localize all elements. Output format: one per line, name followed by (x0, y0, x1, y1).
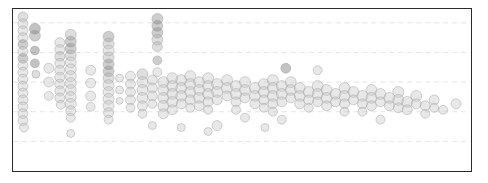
scatter-point (212, 95, 222, 105)
scatter-point (44, 63, 54, 73)
scatter-point (186, 103, 195, 112)
scatter-point (86, 65, 96, 75)
scatter-point (451, 99, 461, 109)
scatter-point (104, 115, 113, 124)
scatter-point (204, 128, 212, 136)
scatter-point (241, 113, 250, 122)
scatter-point (411, 99, 421, 109)
scatter-point (44, 77, 54, 87)
scatter-point (281, 63, 291, 73)
scatter-point (295, 99, 305, 109)
scatter-point (384, 101, 394, 111)
scatter-point (126, 103, 135, 112)
scatter-point (138, 109, 147, 118)
scatter-point (56, 100, 65, 109)
scatter-point (277, 97, 287, 107)
plot-area (13, 9, 471, 171)
scatter-point (19, 123, 28, 132)
scatter-point (376, 115, 385, 124)
scatter-point (439, 105, 448, 114)
scatter-point (153, 68, 162, 77)
scatter-point (212, 121, 222, 131)
scatter-point (29, 30, 40, 41)
scatter-point (148, 99, 157, 108)
scatter-point (340, 107, 349, 116)
scatter-point (116, 74, 124, 82)
scatter-point (86, 78, 96, 88)
scatter-point (322, 101, 332, 111)
scatter-point (240, 93, 250, 103)
scatter-point (67, 130, 75, 138)
scatter-point (153, 56, 162, 65)
scatter-point (277, 115, 286, 124)
scatter-point (232, 105, 241, 114)
scatter-point (430, 103, 439, 112)
scatter-plot-screenshot (0, 0, 488, 183)
scatter-point (116, 97, 123, 104)
scatter-point (30, 46, 39, 55)
scatter-point (331, 97, 341, 107)
scatter-point (421, 109, 430, 118)
scatter-point (66, 113, 75, 122)
scatter-point (30, 59, 39, 68)
scatter-point (358, 107, 367, 116)
plot-frame (12, 8, 472, 172)
scatter-point (194, 101, 204, 111)
data-points-layer (13, 9, 471, 171)
scatter-point (148, 122, 156, 130)
scatter-point (313, 66, 322, 75)
scatter-point (304, 103, 313, 112)
scatter-point (116, 86, 124, 94)
scatter-point (177, 124, 185, 132)
scatter-point (259, 103, 268, 112)
scatter-point (250, 99, 260, 109)
scatter-point (366, 101, 376, 111)
scatter-point (167, 105, 177, 115)
scatter-point (158, 109, 168, 119)
scatter-point (86, 91, 96, 101)
scatter-point (261, 124, 269, 132)
scatter-point (32, 70, 40, 78)
scatter-point (176, 99, 186, 109)
scatter-point (204, 105, 213, 114)
scatter-point (152, 42, 162, 52)
scatter-point (268, 107, 277, 116)
scatter-point (44, 91, 53, 100)
scatter-point (393, 103, 403, 113)
scatter-point (402, 105, 412, 115)
scatter-point (86, 102, 95, 111)
